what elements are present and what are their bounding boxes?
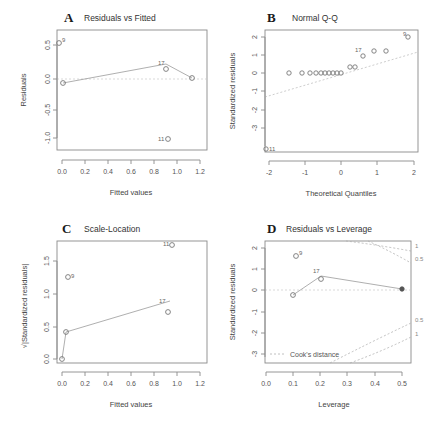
x-tick-label: 0.4 <box>370 380 380 387</box>
panel-b-letter: B <box>267 10 276 25</box>
y-tick-label: 0.5 <box>44 40 51 50</box>
panel-d-y-axis: 2 1 0 -1 -2 -3 <box>251 246 265 357</box>
panel-a-trend-line <box>63 64 192 83</box>
y-tick-label: -0.5 <box>44 104 51 116</box>
panel-d-letter: D <box>267 221 276 236</box>
y-tick-label: -3 <box>251 125 258 131</box>
panel-d-trend-line <box>293 276 402 295</box>
cook-contour-upper-0.5 <box>368 241 411 263</box>
panel-a-x-axis-label: Fitted values <box>110 188 153 197</box>
x-tick-label: 1.2 <box>195 380 205 387</box>
panel-d-plot-frame <box>265 241 411 363</box>
point-label-17: 17 <box>158 60 165 66</box>
panel-d-x-axis-label: Leverage <box>318 400 349 409</box>
x-tick-label: 0.4 <box>103 168 113 175</box>
y-tick-label: 0 <box>251 288 258 292</box>
y-tick-label: 2 <box>251 35 258 39</box>
x-tick-label: 0.6 <box>126 168 136 175</box>
cook-contour-label: 1 <box>415 243 419 249</box>
point-label-17: 17 <box>313 268 320 274</box>
y-tick-label: -2 <box>251 330 258 336</box>
x-tick-label: 0.2 <box>315 380 325 387</box>
x-tick-label: 0.0 <box>261 380 271 387</box>
y-tick-label: 1.0 <box>43 289 50 299</box>
data-point <box>361 54 365 58</box>
data-point <box>170 243 175 248</box>
x-tick-label: -2 <box>266 169 272 176</box>
point-label-17: 17 <box>159 298 166 304</box>
x-tick-label: 0.1 <box>288 380 298 387</box>
x-tick-label: 0.8 <box>149 168 159 175</box>
x-tick-label: 1.2 <box>195 168 205 175</box>
panel-c-x-axis: 0.0 0.2 0.4 0.6 0.8 1.0 1.2 <box>57 372 205 387</box>
point-label-11: 11 <box>163 241 170 247</box>
panel-b-y-axis: 2 1 0 -1 -2 -3 <box>251 35 265 146</box>
x-tick-label: -1 <box>302 169 308 176</box>
x-tick-label: 0.2 <box>80 168 90 175</box>
panel-b-points <box>264 35 410 151</box>
data-point <box>406 35 410 39</box>
panel-c-plot-frame <box>57 241 207 363</box>
panel-a-letter: A <box>64 10 74 25</box>
y-tick-label: 1 <box>251 267 258 271</box>
x-tick-label: 0.4 <box>103 380 113 387</box>
point-label-9: 9 <box>62 37 66 43</box>
cook-contour-label: 1 <box>415 331 419 337</box>
data-point <box>384 49 388 53</box>
y-tick-label: -3 <box>251 351 258 357</box>
y-tick-label: 0.5 <box>43 322 50 332</box>
panel-d-points <box>291 254 405 298</box>
point-label-11: 11 <box>269 146 276 152</box>
y-tick-label: 1 <box>251 53 258 57</box>
panel-b-plot-frame <box>265 30 418 152</box>
panel-b-svg: B Normal Q-Q <box>218 0 437 211</box>
x-tick-label: 1.0 <box>172 168 182 175</box>
panel-d-title: Residuals vs Leverage <box>286 224 372 234</box>
point-label-11: 11 <box>158 136 165 142</box>
x-tick-label: 1 <box>375 169 379 176</box>
data-point <box>353 65 357 69</box>
y-tick-label: 2 <box>251 246 258 250</box>
panel-c-letter: C <box>62 221 71 236</box>
cook-contour-label: 0.5 <box>415 317 424 323</box>
panel-b-x-axis: -2 -1 0 1 2 <box>266 161 416 176</box>
point-label-9: 9 <box>71 273 75 279</box>
x-tick-label: 0.0 <box>57 168 67 175</box>
panel-a-y-axis-label: Residuals <box>19 73 28 106</box>
panel-a-y-axis: 0.5 0.0 -0.5 -1.0 <box>44 40 57 144</box>
x-tick-label: 0.3 <box>342 380 352 387</box>
y-tick-label: -1 <box>251 309 258 315</box>
y-tick-label: 0 <box>251 71 258 75</box>
panel-b-y-axis-label: Standardized residuals <box>228 53 237 130</box>
cooks-distance-legend-label: Cook's distance <box>290 351 339 358</box>
data-point <box>66 275 71 280</box>
panel-b-title: Normal Q-Q <box>292 13 338 23</box>
panel-b-x-axis-label: Theoretical Quantiles <box>306 189 377 198</box>
diagnostic-plot-grid: A Residuals vs Fitted 9 17 11 <box>0 0 437 422</box>
data-point <box>319 277 324 282</box>
data-point <box>300 71 304 75</box>
point-label-17: 17 <box>355 47 362 53</box>
panel-a-title: Residuals vs Fitted <box>84 13 156 23</box>
data-point <box>166 137 171 142</box>
data-point <box>287 71 291 75</box>
panel-a-plot-frame <box>57 30 207 150</box>
data-point <box>348 65 352 69</box>
data-point <box>166 310 171 315</box>
panel-a-svg: A Residuals vs Fitted 9 17 11 <box>0 0 218 211</box>
data-point <box>400 287 404 291</box>
panel-a-points <box>57 41 195 142</box>
panel-c-title: Scale-Location <box>84 224 141 234</box>
panel-c-trend-line <box>62 301 170 359</box>
panel-c-points <box>60 243 175 362</box>
panel-c-scale-location: C Scale-Location 9 17 11 <box>0 211 218 422</box>
data-point <box>314 71 318 75</box>
panel-c-x-axis-label: Fitted values <box>110 400 153 409</box>
y-tick-label: -1 <box>251 88 258 94</box>
x-tick-label: 0.5 <box>397 380 407 387</box>
y-tick-label: -1.0 <box>44 132 51 144</box>
panel-d-svg: D Residuals vs Leverage 1 0.5 0.5 1 <box>218 211 437 422</box>
x-tick-label: 0.2 <box>80 380 90 387</box>
panel-d-x-axis: 0.0 0.1 0.2 0.3 0.4 0.5 <box>261 372 407 387</box>
x-tick-label: 0 <box>339 169 343 176</box>
